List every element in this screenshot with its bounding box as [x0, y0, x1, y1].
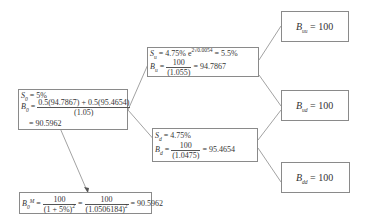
root-price: B0 = 0.5(94.7867) + 0.5(95.4654)(1.05)	[21, 98, 130, 117]
up-price-result: = 94.7867	[191, 62, 226, 71]
down-price-denominator: (1.0475)	[171, 151, 200, 160]
down-rate-value: = 4.75%	[162, 131, 191, 140]
root-price-result: = 90.5962	[29, 119, 62, 128]
up-rate-value: = 4.75% e	[157, 49, 192, 58]
leaf-ud-value: = 100	[308, 100, 334, 111]
edge-up-ud	[259, 75, 281, 106]
leaf-node-uu: Buu = 100	[281, 11, 349, 42]
down-price-numerator: 100	[171, 141, 200, 151]
market-price-fraction-2: 100(1.0506184)2	[85, 195, 129, 214]
edge-down-dd	[258, 148, 281, 182]
down-price-fraction: 100(1.0475)	[171, 141, 200, 160]
down-price-result: = 95.4654	[200, 145, 235, 154]
leaf-dd-text: Bdd = 100	[296, 173, 333, 182]
up-price-fraction: 100(1.055)	[166, 58, 191, 77]
market-denominator-2-text: (1.0506184)	[86, 205, 125, 214]
edge-up-uu	[259, 26, 281, 60]
edge-root-market	[60, 128, 88, 193]
market-price-formula: B0M = 100(1 + 5%)2 = 100(1.0506184)2 = 9…	[22, 195, 163, 214]
up-price-numerator: 100	[166, 58, 191, 68]
leaf-node-dd: Bdd = 100	[281, 162, 350, 193]
leaf-uu-text: Buu = 100	[296, 22, 333, 31]
market-price-fraction-1: 100(1 + 5%)2	[43, 195, 76, 214]
market-price-result: = 90.5962	[129, 199, 164, 208]
market-denominator-1-exp: 2	[72, 203, 75, 209]
market-denominator-2-exp: 2	[125, 203, 128, 209]
market-price-eq2: =	[76, 199, 85, 208]
edge-root-up	[128, 62, 149, 110]
market-numerator-2: 100	[85, 195, 129, 205]
market-price-eq: =	[34, 199, 43, 208]
root-node: S0 = 5% B0 = 0.5(94.7867) + 0.5(95.4654)…	[18, 89, 128, 130]
up-price: Bu = 100(1.055) = 94.7867	[150, 58, 226, 77]
leaf-uu-value: = 100	[308, 21, 334, 32]
down-price: Bd = 100(1.0475) = 95.4654	[155, 141, 235, 160]
market-price-node: B0M = 100(1 + 5%)2 = 100(1.0506184)2 = 9…	[19, 192, 152, 214]
edge-down-ud	[258, 110, 281, 140]
leaf-node-ud: Bud = 100	[281, 90, 349, 121]
down-rate: Sd = 4.75%	[155, 131, 191, 140]
down-node: Sd = 4.75% Bd = 100(1.0475) = 95.4654	[152, 128, 258, 162]
leaf-dd-value: = 100	[308, 172, 334, 183]
up-price-denominator: (1.055)	[166, 68, 191, 77]
up-node: Su = 4.75% e2√0.0054 = 5.5% Bu = 100(1.0…	[147, 47, 259, 77]
up-rate-exponent: 2√0.0054	[191, 47, 212, 53]
up-rate-result: = 5.5%	[212, 49, 237, 58]
root-price-denominator: (1.05)	[37, 108, 130, 117]
up-price-eq: =	[158, 62, 167, 71]
market-denominator-1-text: (1 + 5%)	[44, 205, 73, 214]
market-denominator-1: (1 + 5%)2	[43, 205, 76, 214]
market-denominator-2: (1.0506184)2	[85, 205, 129, 214]
up-rate: Su = 4.75% e2√0.0054 = 5.5%	[150, 49, 238, 58]
down-price-eq: =	[163, 145, 172, 154]
root-price-numerator: 0.5(94.7867) + 0.5(95.4654)	[37, 98, 130, 108]
root-price-fraction: 0.5(94.7867) + 0.5(95.4654)(1.05)	[37, 98, 130, 117]
root-price-eq: =	[29, 102, 38, 111]
leaf-ud-text: Bud = 100	[296, 101, 333, 110]
market-price-sub: 0	[27, 204, 30, 210]
